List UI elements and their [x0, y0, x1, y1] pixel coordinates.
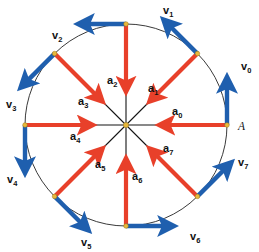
circular-motion-figure: v0a0v1a1v2a2v3a3v4a4v5a5v6a6v7a7 A: [0, 0, 259, 252]
vertex-dot-7: [195, 194, 200, 199]
acceleration-label-a7: a7: [163, 142, 173, 157]
velocity-label-v2: v2: [52, 29, 62, 44]
vertex-dot-2: [124, 22, 129, 27]
vertex-dot-4: [23, 123, 28, 128]
vertex-dot-1: [195, 51, 200, 56]
acceleration-label-a4: a4: [70, 130, 81, 145]
acceleration-label-a5: a5: [95, 158, 105, 173]
velocity-vector-v3: [26, 54, 55, 83]
velocity-label-v6: v6: [190, 230, 200, 245]
velocity-label-v0: v0: [241, 60, 251, 75]
vertex-dot-6: [124, 224, 129, 229]
acceleration-label-a3: a3: [78, 95, 88, 110]
velocity-label-v5: v5: [81, 236, 91, 251]
acceleration-label-a2: a2: [107, 74, 117, 89]
center-dot: [123, 122, 128, 127]
figure-canvas: v0a0v1a1v2a2v3a3v4a4v5a5v6a6v7a7 A: [0, 0, 259, 252]
velocity-label-v4: v4: [7, 173, 18, 188]
velocity-label-v7: v7: [238, 156, 248, 171]
acceleration-label-a6: a6: [132, 170, 142, 185]
velocity-vector-v7: [197, 168, 226, 197]
acceleration-vector-a1: [155, 54, 198, 97]
acceleration-label-a0: a0: [172, 105, 182, 120]
acceleration-vector-a7: [155, 154, 198, 197]
vertex-dot-5: [52, 194, 57, 199]
vertex-dot-3: [52, 51, 57, 56]
acceleration-vector-a5: [55, 154, 98, 197]
acceleration-label-a1: a1: [148, 82, 158, 97]
velocity-vector-v5: [55, 196, 84, 225]
vertex-dot-0: [225, 123, 230, 128]
acceleration-vector-a3: [55, 54, 98, 97]
velocity-label-v3: v3: [6, 98, 16, 113]
velocity-vector-v1: [169, 25, 198, 54]
point-a-label: A: [237, 120, 246, 132]
velocity-label-v1: v1: [163, 4, 173, 19]
